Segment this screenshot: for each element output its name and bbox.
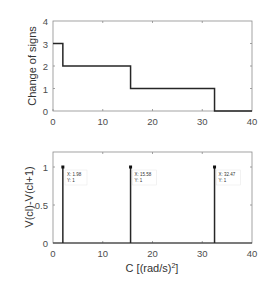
top-xtick-20: 20 [147,116,158,127]
datatip-2-y: Y: 1 [135,178,143,183]
datatip-3-y: Y: 1 [219,178,227,183]
bottom-xlabel-main: C [(rad/s) [126,262,172,274]
bottom-ytick-0: 0 [43,238,48,249]
datatip-3-x: X: 32.47 [219,172,236,177]
datatip-2-x: X: 15.58 [135,172,152,177]
datatip-2[interactable]: X: 15.58 Y: 1 [133,170,157,185]
top-ytick-1: 1 [43,84,48,95]
datatip-1-y: Y: 1 [67,178,75,183]
top-ytick-4: 4 [43,16,48,27]
bottom-xtick-0: 0 [50,248,55,259]
top-ylabel: Change of signs [26,26,38,106]
datatip-3[interactable]: X: 32.47 Y: 1 [217,170,241,185]
bottom-xlabel: C [(rad/s)2] [126,262,179,274]
top-ytick-0: 0 [43,106,48,117]
top-ytick-2: 2 [43,61,48,72]
bottom-ylabel: V(cl)-V(cl+1) [23,166,35,227]
bottom-xlabel-end: ] [175,262,178,274]
bottom-axes: X: 1.98 Y: 1 X: 15.58 Y: 1 X: 32.47 Y: 1… [23,152,257,274]
bottom-xtick-20: 20 [147,248,158,259]
datatip-1-x: X: 1.98 [67,172,82,177]
bottom-xtick-40: 40 [247,248,258,259]
bottom-ytick-1: 1 [43,162,48,173]
bottom-xtick-30: 30 [197,248,208,259]
datatip-1[interactable]: X: 1.98 Y: 1 [65,170,87,185]
top-xtick-40: 40 [247,116,258,127]
top-xtick-10: 10 [97,116,108,127]
top-axes: 4 3 2 1 0 0 10 20 30 40 Change of signs [26,16,257,127]
bottom-xtick-10: 10 [97,248,108,259]
stem-marker-1[interactable] [61,166,64,169]
top-xtick-30: 30 [197,116,208,127]
top-xtick-0: 0 [50,116,55,127]
bottom-ytick-0.5: 0.5 [35,200,48,211]
stem-marker-3[interactable] [213,166,216,169]
bottom-axes-box [53,152,252,243]
stem-marker-2[interactable] [129,166,132,169]
top-ytick-3: 3 [43,39,48,50]
figure: 4 3 2 1 0 0 10 20 30 40 Change of signs [0,0,270,293]
